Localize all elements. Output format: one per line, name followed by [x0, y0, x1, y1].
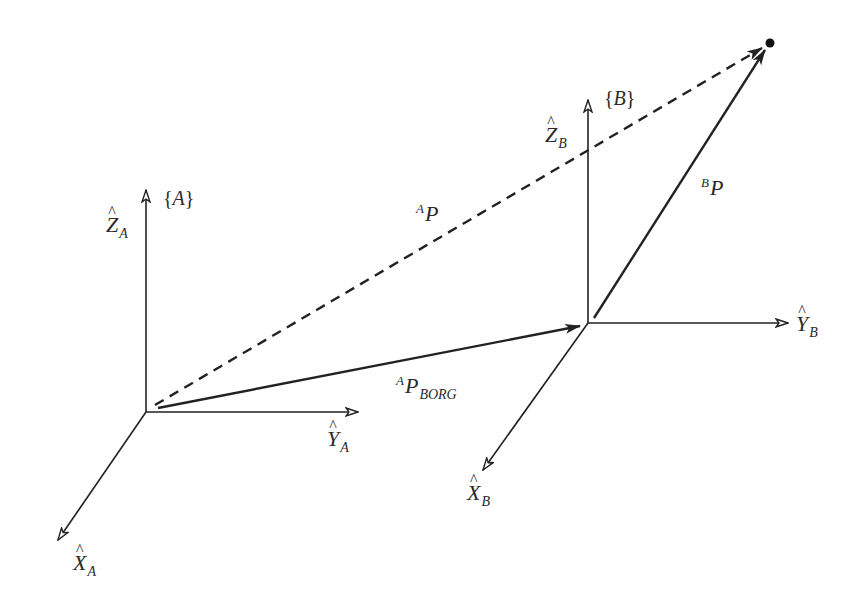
- frame-a-y-label: ^YA: [327, 428, 349, 450]
- a-p-borg-subscript: BORG: [419, 387, 456, 402]
- hat-x-a: ^X: [73, 552, 86, 574]
- hat-icon: ^: [470, 472, 478, 488]
- frame-b-x-label: ^XB: [467, 482, 490, 504]
- x-a-subscript: A: [87, 564, 96, 579]
- frame-b-z-label: ^ZB: [545, 124, 567, 146]
- label-a-p: AP: [416, 203, 438, 225]
- hat-icon: ^: [108, 204, 116, 220]
- hat-icon: ^: [329, 418, 337, 434]
- a-p-borg-superscript: A: [396, 373, 404, 388]
- label-a-p-borg: APBORG: [396, 375, 457, 397]
- frame-b-letter: B: [614, 87, 626, 109]
- b-p-superscript: B: [701, 175, 709, 190]
- hat-y-b: ^Y: [796, 313, 808, 335]
- a-p-borg-symbol: P: [405, 373, 418, 398]
- frame-b-axes: [483, 100, 788, 470]
- frame-diagram: [0, 0, 861, 600]
- hat-x-b: ^X: [467, 482, 480, 504]
- frame-a-axes: [58, 190, 358, 540]
- label-b-p: BP: [701, 177, 723, 199]
- y-a-subscript: A: [340, 440, 349, 455]
- y-b-subscript: B: [809, 325, 818, 340]
- hat-z-b: ^Z: [545, 124, 557, 146]
- frame-b-x-axis: [483, 323, 588, 470]
- hat-icon: ^: [76, 542, 84, 558]
- x-b-subscript: B: [481, 494, 490, 509]
- hat-icon: ^: [798, 303, 806, 319]
- frame-a-label: {A}: [163, 188, 194, 208]
- hat-y-a: ^Y: [327, 428, 339, 450]
- z-b-subscript: B: [558, 136, 567, 151]
- frame-a-x-label: ^XA: [73, 552, 96, 574]
- point-p-dot: [766, 39, 775, 48]
- z-a-subscript: A: [119, 226, 128, 241]
- a-p-superscript: A: [416, 201, 424, 216]
- a-p-symbol: P: [425, 201, 438, 226]
- frame-b-label: {B}: [604, 88, 635, 108]
- frame-a-z-label: ^ZA: [106, 214, 128, 236]
- vector-a-p-dashed: [155, 48, 762, 405]
- frame-b-y-label: ^YB: [796, 313, 818, 335]
- hat-z-a: ^Z: [106, 214, 118, 236]
- b-p-symbol: P: [710, 175, 723, 200]
- hat-icon: ^: [547, 114, 555, 130]
- frame-a-x-axis: [58, 412, 146, 540]
- frame-a-letter: A: [173, 187, 185, 209]
